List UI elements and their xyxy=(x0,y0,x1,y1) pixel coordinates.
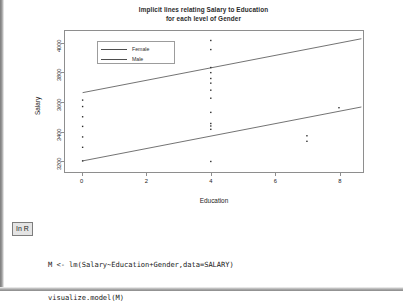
data-point xyxy=(210,78,211,79)
data-point xyxy=(210,125,211,126)
x-tick-mark xyxy=(275,173,276,176)
legend-line-icon xyxy=(101,59,127,60)
data-point xyxy=(210,161,211,162)
data-point xyxy=(210,123,211,124)
in-r-badge: In R xyxy=(12,222,33,236)
y-tick-label: 3400 xyxy=(56,128,62,140)
data-point xyxy=(306,135,307,136)
legend-item-label: Female xyxy=(132,46,149,53)
legend-item: Male xyxy=(101,55,174,63)
x-tick-label: 8 xyxy=(333,178,347,184)
data-point xyxy=(210,89,211,90)
chart-title: Implicit lines relating Salary to Educat… xyxy=(4,6,403,23)
data-point xyxy=(82,106,83,107)
data-point xyxy=(210,49,211,50)
data-point xyxy=(82,99,83,100)
chart-title-line-2: for each level of Gender xyxy=(4,15,403,24)
y-tick-label: 4000 xyxy=(56,39,62,51)
legend-item-label: Male xyxy=(132,56,143,63)
data-point xyxy=(82,136,83,137)
r-code-block: M <- lm(Salary~Education+Gender,data=SAL… xyxy=(48,237,378,305)
data-point xyxy=(210,72,211,73)
chart-title-line-1: Implicit lines relating Salary to Educat… xyxy=(4,6,403,15)
data-point xyxy=(306,141,307,142)
x-tick-label: 0 xyxy=(75,178,89,184)
data-point xyxy=(210,40,211,41)
data-point xyxy=(82,147,83,148)
x-tick-label: 4 xyxy=(204,178,218,184)
x-tick-mark xyxy=(82,173,83,176)
data-point xyxy=(210,67,211,68)
r-plot-figure: Implicit lines relating Salary to Educat… xyxy=(4,6,403,211)
legend-item: Female xyxy=(101,45,174,53)
regression-line-male xyxy=(83,107,362,161)
y-axis-label: Salary xyxy=(34,96,41,114)
data-point xyxy=(210,98,211,99)
y-tick-label: 3600 xyxy=(56,98,62,110)
x-axis-label: Education xyxy=(64,197,364,204)
code-line: M <- lm(Salary~Education+Gender,data=SAL… xyxy=(48,259,378,270)
x-tick-mark xyxy=(211,173,212,176)
data-point xyxy=(338,107,339,108)
x-tick-mark xyxy=(146,173,147,176)
data-point xyxy=(210,82,211,83)
legend-line-icon xyxy=(101,49,127,50)
data-point xyxy=(210,112,211,113)
document-page: Implicit lines relating Salary to Educat… xyxy=(4,0,403,287)
y-tick-label: 3200 xyxy=(56,158,62,170)
code-line: visualize.model(M) xyxy=(48,292,378,303)
data-point xyxy=(82,160,83,161)
x-tick-label: 6 xyxy=(268,178,282,184)
plot-frame: Female Male xyxy=(64,30,364,173)
x-tick-label: 2 xyxy=(139,178,153,184)
data-point xyxy=(82,126,83,127)
data-point xyxy=(82,116,83,117)
x-tick-mark xyxy=(340,173,341,176)
legend: Female Male xyxy=(97,41,175,64)
y-tick-label: 3800 xyxy=(56,69,62,81)
data-point xyxy=(210,129,211,130)
